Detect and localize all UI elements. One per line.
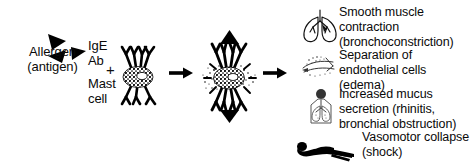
endothelial-cells-icon — [300, 49, 340, 83]
effect-row-vasomotor-collapse: Vasomotor collapse (shock) — [292, 127, 471, 166]
torso-airways-icon — [304, 87, 338, 125]
effect-row-endothelial-separation: Separation of endothelial cells (edema) — [296, 47, 471, 89]
mast-cell-resting-icon — [113, 40, 165, 110]
arrow-right-icon-1 — [168, 66, 194, 80]
effect-row-increased-mucus: Increased mucus secretion (rhinitis, bro… — [296, 86, 471, 130]
effect-label-smooth-muscle-contraction: Smooth muscle contraction (bronchoconstr… — [339, 5, 471, 50]
effect-row-smooth-muscle-contraction: Smooth muscle contraction (bronchoconstr… — [296, 4, 471, 48]
mast-cell-degranulating-icon — [196, 26, 264, 126]
arrow-right-icon-2 — [262, 66, 288, 80]
hypersensitivity-diagram: Allergen (antigen) + IgE Ab Mast cell — [0, 0, 471, 166]
effect-label-vasomotor-collapse: Vasomotor collapse (shock) — [362, 130, 471, 160]
effect-label-increased-mucus: Increased mucus secretion (rhinitis, bro… — [339, 87, 471, 132]
lungs-icon — [300, 7, 340, 45]
collapsed-person-icon — [294, 132, 356, 164]
